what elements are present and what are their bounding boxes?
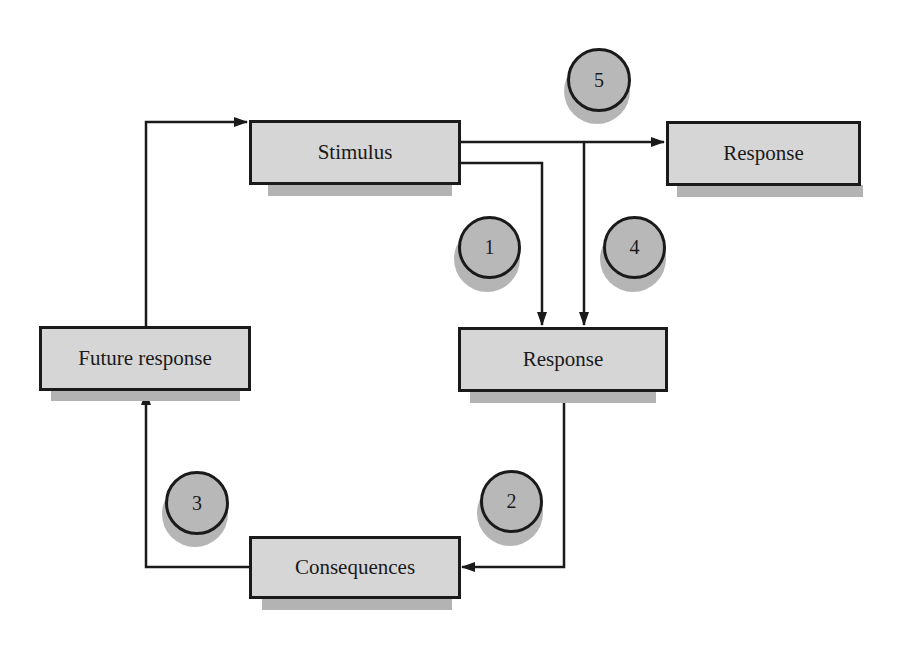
marker-4-label: 4 — [630, 236, 640, 259]
stimulus-box-shadow — [268, 184, 452, 196]
response-top-box-shadow — [677, 185, 863, 197]
marker-5: 5 — [567, 48, 631, 112]
response-mid-box-shadow — [470, 391, 656, 403]
marker-1: 1 — [458, 216, 521, 279]
future-response-box: Future response — [39, 326, 251, 391]
marker-2: 2 — [480, 470, 543, 533]
consequences-box-shadow — [262, 598, 452, 610]
response-top-label: Response — [723, 141, 804, 166]
marker-4: 4 — [603, 216, 666, 279]
marker-2-label: 2 — [507, 490, 517, 513]
marker-3-label: 3 — [192, 492, 202, 515]
response-top-box: Response — [666, 121, 861, 186]
response-mid-box: Response — [458, 327, 668, 392]
stimulus-response-diagram: Stimulus Response Response Future respon… — [0, 0, 922, 645]
stimulus-box: Stimulus — [249, 120, 461, 185]
response-mid-label: Response — [523, 347, 604, 372]
edge-future-response-to-stimulus — [146, 122, 247, 326]
future-response-label: Future response — [78, 346, 212, 371]
connector-lines — [0, 0, 922, 645]
consequences-box: Consequences — [249, 536, 461, 599]
consequences-label: Consequences — [295, 555, 415, 580]
marker-3: 3 — [165, 471, 229, 535]
future-response-box-shadow — [51, 390, 240, 401]
marker-1-label: 1 — [485, 236, 495, 259]
stimulus-label: Stimulus — [318, 140, 393, 165]
marker-5-label: 5 — [594, 69, 604, 92]
